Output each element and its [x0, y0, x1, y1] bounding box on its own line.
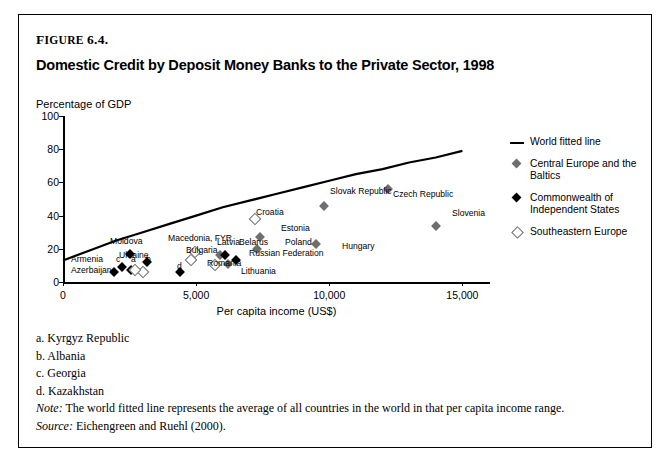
point-label-d: d: [177, 261, 182, 271]
note-text: The world fitted line represents the ave…: [63, 401, 565, 415]
data-point: [312, 240, 319, 247]
point-label-estonia: Estonia: [281, 223, 310, 233]
legend-item-cis: Commonwealth of Independent States: [512, 192, 652, 217]
legend-label: Southeastern Europe: [530, 226, 627, 237]
diamond-marker-icon: [184, 254, 197, 267]
y-tick-label: 100: [41, 110, 59, 122]
point-label-poland: Poland: [285, 237, 312, 247]
point-label-belarus: Belarus: [239, 237, 268, 247]
source-text: Eichengreen and Ruehl (2000).: [73, 419, 226, 433]
source-label: Source:: [36, 419, 73, 433]
figure-number-rest: IGURE: [45, 34, 84, 46]
legend-label: World fitted line: [530, 136, 601, 147]
point-label-slovak-republic: Slovak Republic: [330, 186, 392, 196]
figure-number: FIGURE 6.4.: [36, 32, 108, 48]
point-label-croatia: Croatia: [256, 207, 284, 217]
point-label-slovenia: Slovenia: [452, 208, 485, 218]
note-line: Note: The world fitted line represents t…: [36, 400, 564, 418]
footnote-b: b. Albania: [36, 348, 564, 366]
legend-item-southeastern-europe: Southeastern Europe: [512, 226, 652, 239]
diamond-gray-icon: [512, 158, 522, 168]
y-tick-mark: [59, 249, 63, 250]
point-label-bulgaria: Bulgaria: [186, 245, 218, 255]
footnote-c: c. Georgia: [36, 365, 564, 383]
data-point: [320, 202, 327, 209]
x-tick-mark: [462, 282, 463, 286]
y-tick-mark: [59, 149, 63, 150]
x-tick-mark: [63, 282, 64, 286]
diamond-marker-icon: [319, 201, 329, 211]
point-label-moldova: Moldova: [110, 236, 142, 246]
x-axis-line: [63, 282, 490, 284]
point-label-hungary: Hungary: [342, 241, 374, 251]
figure-number-prefix: F: [36, 32, 45, 47]
page-title: Domestic Credit by Deposit Money Banks t…: [36, 57, 494, 73]
x-axis-label: Per capita income (US$): [63, 305, 490, 317]
legend-item-central-europe: Central Europe and the Baltics: [512, 158, 652, 183]
line-swatch-icon: [510, 142, 524, 144]
point-label-ukraine: Ukraine: [119, 250, 149, 260]
chart-legend: World fitted line Central Europe and the…: [512, 136, 652, 247]
source-line: Source: Eichengreen and Ruehl (2000).: [36, 418, 564, 436]
x-tick-label: 0: [60, 289, 66, 301]
data-point: [432, 222, 439, 229]
data-point: [186, 256, 195, 265]
legend-item-world-fitted-line: World fitted line: [512, 136, 652, 149]
y-tick-mark: [59, 182, 63, 183]
footnote-a: a. Kyrgyz Republic: [36, 330, 564, 348]
legend-label: Commonwealth of Independent States: [530, 192, 619, 216]
y-tick-mark: [59, 216, 63, 217]
point-label-azerbaijan: Azerbaijan: [71, 265, 112, 275]
x-tick-mark: [196, 282, 197, 286]
data-point: [130, 266, 139, 275]
y-tick-label: 60: [47, 176, 59, 188]
y-tick-label: 20: [47, 243, 59, 255]
figure-page: FIGURE 6.4. Domestic Credit by Deposit M…: [0, 0, 669, 464]
point-label-russian-federation: Russian Federation: [249, 248, 324, 258]
y-tick-mark: [59, 116, 63, 117]
point-label-latvia: Latvia: [217, 237, 240, 247]
data-point: [118, 264, 125, 271]
point-label-czech-republic: Czech Republic: [393, 189, 453, 199]
y-tick-label: 40: [47, 210, 59, 222]
diamond-marker-icon: [129, 264, 142, 277]
point-label-lithuania: Lithuania: [241, 266, 276, 276]
figure-number-value: 6.4.: [87, 32, 108, 47]
x-tick-label: 10,000: [313, 289, 345, 301]
point-label-armenia: Armenia: [71, 254, 103, 264]
figure-notes: a. Kyrgyz Republic b. Albania c. Georgia…: [36, 330, 564, 435]
y-axis-label: Percentage of GDP: [36, 98, 131, 110]
diamond-marker-icon: [431, 221, 441, 231]
y-tick-label: 80: [47, 143, 59, 155]
x-tick-label: 15,000: [446, 289, 478, 301]
diamond-open-icon: [511, 226, 524, 239]
legend-label: Central Europe and the Baltics: [530, 158, 636, 182]
note-label: Note:: [36, 401, 63, 415]
diamond-black-icon: [512, 192, 522, 202]
footnote-d: d. Kazakhstan: [36, 383, 564, 401]
x-tick-mark: [329, 282, 330, 286]
x-tick-label: 5,000: [183, 289, 209, 301]
point-label-romania: Romania: [207, 258, 241, 268]
